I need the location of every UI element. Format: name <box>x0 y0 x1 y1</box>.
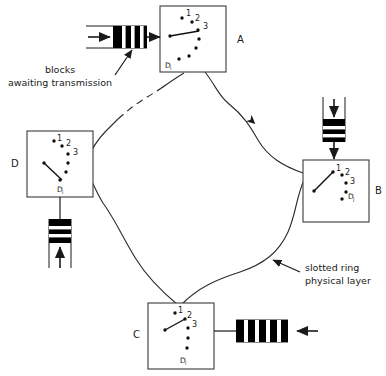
node-a-label-di-sub: i <box>170 65 171 71</box>
queue-d[interactable] <box>49 197 71 268</box>
node-a[interactable]: 1 2 3 D i A <box>160 6 244 72</box>
queue-d-block[interactable] <box>49 219 71 243</box>
node-b-name-label: B <box>375 185 382 196</box>
node-d[interactable]: 1 2 3 D i D <box>11 131 93 197</box>
annotation-slotted-ring-line1: slotted ring <box>305 262 359 273</box>
queue-b[interactable] <box>323 97 345 159</box>
annotation-blocks-awaiting-line2: awaiting transmission <box>8 77 112 88</box>
queue-a-stripe-3 <box>140 26 144 48</box>
node-a-label-2: 2 <box>195 14 200 23</box>
ring-link-d-to-a-dashed <box>118 91 157 119</box>
annotation-slotted-ring-leader <box>273 260 300 272</box>
node-a-name-label: A <box>237 34 244 45</box>
node-c-label-di-sub: i <box>185 360 186 366</box>
node-a-label-3: 3 <box>203 22 208 31</box>
node-d-label-di-sub: i <box>62 189 63 195</box>
node-d-label-1: 1 <box>57 134 62 143</box>
annotation-slotted-ring: slotted ring physical layer <box>273 260 371 286</box>
node-b[interactable]: 1 2 3 D j B <box>303 160 382 222</box>
figure-canvas: 1 2 3 D i A 1 2 3 D j B <box>0 0 386 376</box>
node-a-label-1: 1 <box>186 9 191 18</box>
node-d-name-label: D <box>11 158 19 169</box>
queue-d-stripe-2 <box>49 234 71 237</box>
annotation-blocks-awaiting-line1: blocks <box>45 64 75 75</box>
ring-link-c-to-d <box>86 170 178 305</box>
queue-c-stripe-4 <box>277 320 281 342</box>
node-d-label-2: 2 <box>66 139 71 148</box>
queue-a[interactable] <box>86 26 160 48</box>
node-d-label-3: 3 <box>73 148 78 157</box>
node-c-label-1: 1 <box>178 306 183 315</box>
queue-b-block[interactable] <box>323 119 345 142</box>
annotation-blocks-awaiting: blocks awaiting transmission <box>8 50 132 88</box>
slotted-ring-diagram: 1 2 3 D i A 1 2 3 D j B <box>0 0 386 376</box>
queue-d-stripe-1 <box>49 226 71 229</box>
queue-c[interactable] <box>214 320 318 342</box>
node-c[interactable]: 1 2 3 D i C <box>133 303 214 369</box>
queue-a-stripe-2 <box>131 26 135 48</box>
queue-c-stripe-2 <box>255 320 259 342</box>
ring-link-d-to-a-solid-high <box>157 73 184 91</box>
queue-a-stripe-1 <box>122 26 126 48</box>
ring-link-b-to-c <box>182 180 304 304</box>
queue-c-stripe-3 <box>266 320 270 342</box>
annotation-blocks-awaiting-leader <box>115 50 132 75</box>
annotation-slotted-ring-line2: physical layer <box>305 275 371 286</box>
node-c-label-2: 2 <box>187 311 192 320</box>
node-b-label-2: 2 <box>345 168 350 177</box>
ring-link-a-to-b <box>205 72 303 173</box>
node-b-label-3: 3 <box>350 177 355 186</box>
queue-c-stripe-1 <box>244 320 248 342</box>
node-b-label-dj-sub: j <box>352 196 354 203</box>
node-b-label-1: 1 <box>336 164 341 173</box>
node-c-name-label: C <box>133 329 140 340</box>
queue-b-stripe-2 <box>323 134 345 137</box>
node-c-label-3: 3 <box>192 320 197 329</box>
ring-links <box>85 72 304 305</box>
queue-b-stripe-1 <box>323 126 345 129</box>
